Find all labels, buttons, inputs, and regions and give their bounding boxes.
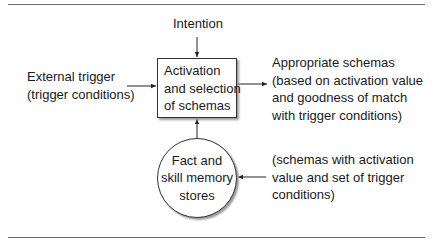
memory-note-label: (schemas with activation value and set o… (272, 151, 414, 204)
external-trigger-line: (trigger conditions) (27, 86, 135, 104)
box-line: and selection (164, 80, 236, 98)
memory-note-line: value and set of trigger (272, 169, 414, 187)
external-trigger-line: External trigger (27, 68, 135, 86)
output-line: with trigger conditions) (272, 107, 423, 125)
output-line: and goodness of match (272, 89, 423, 107)
memory-note-line: conditions) (272, 186, 414, 204)
intention-label: Intention (173, 15, 223, 33)
memory-stores-circle: Fact and skill memory stores (157, 138, 237, 218)
activation-selection-box: Activation and selection of schemas (157, 58, 237, 118)
box-line: Activation (164, 62, 236, 80)
box-line: of schemas (164, 97, 236, 115)
memory-line: Fact and (172, 152, 223, 170)
output-line: (based on activation value (272, 72, 423, 90)
appropriate-schemas-label: Appropriate schemas (based on activation… (272, 54, 423, 124)
memory-line: skill memory (161, 169, 233, 187)
memory-line: stores (179, 187, 214, 205)
memory-note-line: (schemas with activation (272, 151, 414, 169)
output-line: Appropriate schemas (272, 54, 423, 72)
external-trigger-label: External trigger (trigger conditions) (27, 68, 135, 103)
